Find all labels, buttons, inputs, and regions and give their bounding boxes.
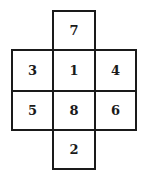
cell-bottom: 2: [52, 129, 96, 170]
cell-lower-right: 6: [94, 90, 137, 131]
cell-middle-left: 3: [11, 49, 54, 92]
cell-middle-center: 1: [52, 49, 96, 92]
cell-label: 7: [69, 23, 78, 38]
cell-lower-center: 8: [52, 90, 96, 131]
cell-label: 8: [69, 103, 78, 118]
cell-middle-right: 4: [94, 49, 137, 92]
cell-top: 7: [52, 10, 96, 51]
cell-label: 2: [69, 142, 78, 157]
cell-label: 4: [111, 63, 120, 78]
cell-label: 6: [111, 103, 120, 118]
cell-lower-left: 5: [11, 90, 54, 131]
cell-label: 1: [69, 63, 78, 78]
cell-label: 5: [28, 103, 37, 118]
cell-label: 3: [28, 63, 37, 78]
